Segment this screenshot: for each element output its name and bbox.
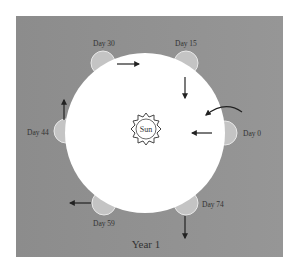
orbit-diagram: Sun Day 0 Day 15 Day 30 Day 44 Day 59 Da…	[0, 0, 297, 267]
year-title: Year 1	[132, 238, 161, 250]
sun-label: Sun	[140, 125, 152, 134]
label-day-44: Day 44	[27, 128, 49, 137]
label-day-30: Day 30	[93, 39, 115, 48]
label-day-15: Day 15	[175, 39, 197, 48]
label-day-59: Day 59	[93, 219, 115, 228]
label-day-74: Day 74	[202, 200, 224, 209]
label-day-0: Day 0	[243, 129, 261, 138]
